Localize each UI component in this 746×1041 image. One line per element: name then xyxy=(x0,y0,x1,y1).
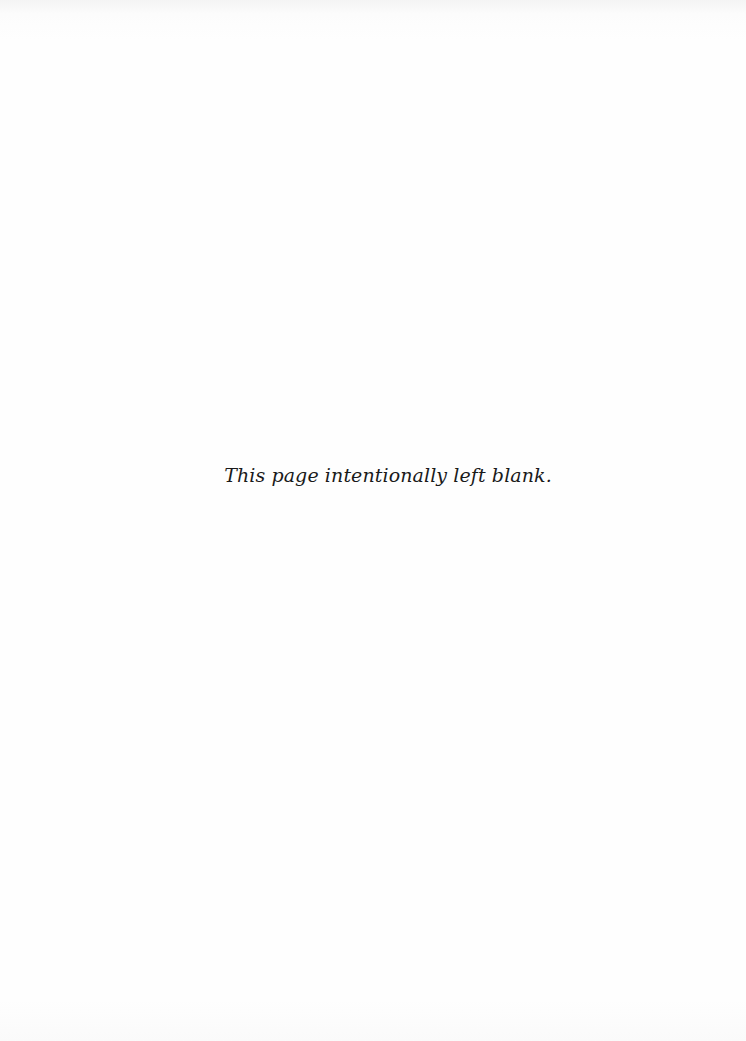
intentionally-blank-notice: This page intentionally left blank. xyxy=(0,464,746,486)
blank-page: This page intentionally left blank. xyxy=(0,0,746,1041)
